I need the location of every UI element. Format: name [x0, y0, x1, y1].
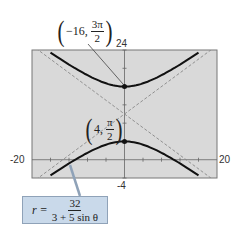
x-min-label: -20 [10, 155, 24, 165]
upper-vertex-annotation: ( −16, 3π2 ) [56, 16, 114, 46]
y-min-label: -4 [117, 181, 126, 191]
equation-lhs: r = [32, 203, 48, 218]
x-max-label: 20 [219, 155, 230, 165]
upper-vertex-r: −16, [66, 24, 88, 39]
upper-vertex-theta-num: 3π [91, 18, 104, 31]
lower-vertex-theta-num: π [106, 116, 114, 129]
vertex-point-1 [122, 84, 127, 89]
lower-vertex-annotation: ( 4, π2 ) [84, 114, 124, 144]
y-max-label: 24 [116, 39, 127, 49]
upper-vertex-theta-den: 2 [95, 32, 101, 44]
equation-numerator: 32 [68, 197, 81, 210]
lower-vertex-r: 4, [94, 122, 103, 137]
equation-callout: r = 323 + 5 sin θ [22, 196, 108, 224]
equation-denominator: 3 + 5 sin θ [52, 211, 98, 223]
lower-vertex-theta-den: 2 [107, 130, 113, 142]
